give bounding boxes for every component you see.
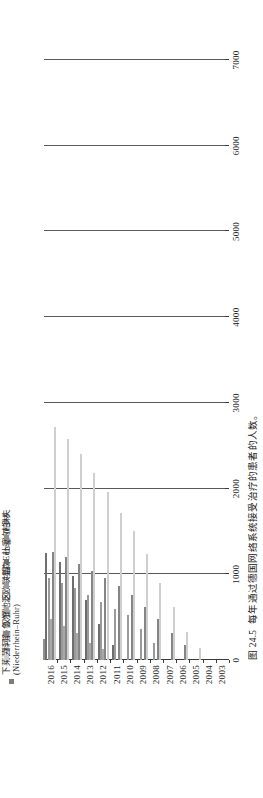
legend-swatch-icon	[9, 679, 14, 684]
figure-24-5: 柏林杜塞尔多夫埃森泛欧联盟 (Euregio)汉堡科隆下莱茵河与鲁尔地区(Nie…	[0, 0, 263, 798]
bar	[153, 643, 155, 660]
year-tick-label: 2007	[165, 665, 175, 684]
year-tick-label: 2005	[191, 665, 201, 684]
year-tick-mark	[97, 660, 98, 663]
bar	[120, 513, 122, 660]
plot-gridlines	[44, 60, 229, 660]
year-tick-mark	[189, 660, 190, 663]
value-tick-label: 1000	[231, 565, 241, 584]
value-tick-label: 5000	[231, 222, 241, 241]
year-tick-label: 2009	[138, 665, 148, 684]
bar	[93, 473, 95, 660]
year-tick-label: 2006	[178, 665, 188, 684]
year-tick-mark	[163, 660, 164, 663]
bar	[133, 531, 135, 660]
year-tick-mark	[137, 660, 138, 663]
legend-swatch-icon	[4, 583, 9, 588]
gridline	[44, 488, 229, 489]
year-tick-label: 2010	[125, 665, 135, 684]
year-tick-mark	[203, 660, 204, 663]
legend-item: 汉堡	[0, 612, 12, 636]
gridline	[44, 230, 229, 231]
legend-label: 柏林	[2, 513, 12, 531]
legend-item: 柏林	[0, 516, 12, 540]
bar	[159, 583, 161, 660]
year-tick-label: 2012	[98, 665, 108, 684]
bar	[127, 615, 129, 660]
caption-text: 每年通过德国网络系统接受治疗的患者的人数。	[248, 410, 258, 624]
value-tick-label: 0	[231, 658, 241, 663]
year-tick-mark	[176, 660, 177, 663]
caption-number: 图 24.5	[248, 630, 258, 660]
year-tick-label: 2011	[112, 665, 122, 684]
value-tick-mark	[225, 59, 229, 60]
chart-plot-area	[44, 60, 229, 660]
bar	[54, 427, 56, 660]
category-axis-ticks: 2003200420052006200720082009201020112012…	[44, 662, 229, 702]
legend-item: 科隆	[0, 636, 12, 660]
year-tick-label: 2003	[217, 665, 227, 684]
year-tick-mark	[110, 660, 111, 663]
value-tick-mark	[225, 316, 229, 317]
bar	[146, 554, 148, 660]
value-tick-label: 7000	[231, 50, 241, 69]
gridline	[44, 573, 229, 574]
legend-item: 埃森	[0, 564, 12, 588]
legend-item: 杜塞尔多夫	[0, 540, 12, 564]
bar	[114, 609, 116, 660]
value-tick-label: 6000	[231, 136, 241, 155]
year-tick-label: 2008	[151, 665, 161, 684]
value-tick-label: 3000	[231, 393, 241, 412]
year-tick-mark	[57, 660, 58, 663]
year-tick-label: 2014	[72, 665, 82, 684]
year-tick-mark	[84, 660, 85, 663]
legend-item: 下莱茵河与鲁尔地区(Niederrhein–Ruhr)	[0, 660, 21, 684]
value-tick-mark	[225, 402, 229, 403]
year-tick-label: 2013	[85, 665, 95, 684]
value-tick-mark	[225, 573, 229, 574]
year-tick-label: 2004	[204, 665, 214, 684]
legend-item: 泛欧联盟 (Euregio)	[0, 588, 12, 612]
bar	[173, 607, 175, 660]
legend-swatch-icon	[4, 631, 9, 636]
gridline	[44, 316, 229, 317]
figure-caption: 图 24.5每年通过德国网络系统接受治疗的患者的人数。	[247, 40, 259, 660]
year-tick-label: 2016	[46, 665, 56, 684]
value-tick-mark	[225, 145, 229, 146]
value-tick-label: 4000	[231, 308, 241, 327]
value-tick-mark	[225, 230, 229, 231]
gridline	[44, 59, 229, 60]
value-tick-mark	[225, 488, 229, 489]
year-tick-mark	[229, 660, 230, 663]
year-tick-mark	[70, 660, 71, 663]
year-tick-mark	[123, 660, 124, 663]
rotated-figure-wrapper: 柏林杜塞尔多夫埃森泛欧联盟 (Euregio)汉堡科隆下莱茵河与鲁尔地区(Nie…	[0, 0, 263, 798]
bar	[107, 492, 109, 660]
bar	[199, 648, 201, 660]
bar	[186, 632, 188, 660]
year-tick-mark	[150, 660, 151, 663]
gridline	[44, 402, 229, 403]
gridline	[44, 145, 229, 146]
year-tick-mark	[216, 660, 217, 663]
legend-swatch-icon	[4, 607, 9, 612]
year-tick-label: 2015	[59, 665, 69, 684]
legend-swatch-icon	[4, 655, 9, 660]
value-tick-label: 2000	[231, 479, 241, 498]
bar	[80, 454, 82, 660]
bar	[140, 629, 142, 660]
bar	[67, 439, 69, 660]
legend-swatch-icon	[4, 559, 9, 564]
legend-swatch-icon	[4, 535, 9, 540]
